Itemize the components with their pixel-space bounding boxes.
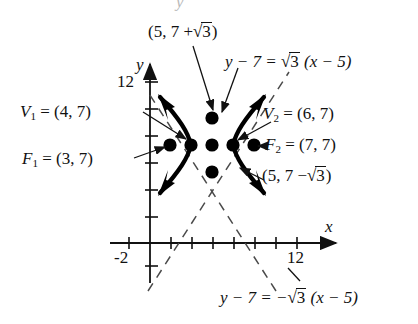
leader-asymptote-positive bbox=[222, 68, 238, 112]
point-vertex-1 bbox=[184, 138, 197, 151]
leader-co-vertex-upper bbox=[193, 46, 213, 110]
point-co-vertex-upper bbox=[205, 111, 218, 124]
leader-lines bbox=[134, 46, 300, 281]
label-co-vertex-lower: (5, 7 −√3) bbox=[262, 166, 332, 184]
x-tick-label-minus-2: -2 bbox=[114, 249, 128, 266]
label-vertex-1: V1 = (4, 7) bbox=[20, 103, 91, 122]
point-co-vertex-lower bbox=[205, 165, 218, 178]
y-axis-ticks bbox=[145, 82, 158, 266]
label-focus-1: F1 = (3, 7) bbox=[22, 150, 93, 169]
arrowhead-upper-left bbox=[158, 94, 175, 120]
label-asymptote-negative: y − 7 = −√3 (x − 5) bbox=[220, 288, 358, 306]
y-tick-label-12: 12 bbox=[117, 73, 134, 90]
label-asymptote-positive: y − 7 = √3 (x − 5) bbox=[225, 52, 351, 70]
x-axis-label: x bbox=[325, 218, 333, 235]
leader-asymptote-negative bbox=[288, 268, 300, 281]
label-focus-2: F2 = (7, 7) bbox=[265, 136, 336, 155]
label-vertex-2: V2 = (6, 7) bbox=[263, 105, 334, 124]
x-tick-label-12: 12 bbox=[287, 249, 304, 266]
point-focus-2 bbox=[247, 138, 260, 151]
label-co-vertex-upper: (5, 7 +√3) bbox=[148, 22, 218, 40]
point-focus-1 bbox=[163, 138, 176, 151]
arrowhead-lower-left bbox=[158, 170, 175, 196]
hyperbola-figure: y bbox=[0, 0, 418, 324]
point-center bbox=[205, 138, 218, 151]
point-vertex-2 bbox=[226, 138, 239, 151]
y-axis-label: y bbox=[136, 56, 144, 73]
